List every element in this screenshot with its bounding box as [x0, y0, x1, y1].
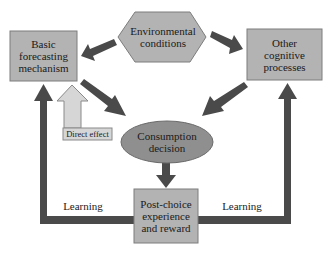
consumption-line-1: Consumption — [137, 130, 196, 142]
basic-forecasting-line-2: forecasting — [19, 50, 68, 62]
post-choice-label: Post-choice experience and reward — [134, 189, 198, 243]
basic-forecasting-line-3: mechanism — [18, 62, 68, 74]
arrow-env-to-basic — [81, 39, 117, 61]
other-cognitive-line-2: cognitive — [264, 49, 305, 61]
consumption-label: Consumption decision — [121, 121, 213, 163]
environmental-line-2: conditions — [140, 37, 186, 49]
direct-effect-label: Direct effect — [63, 128, 112, 140]
arrow-other-to-consumption — [202, 82, 248, 116]
environmental-label: Environmental conditions — [125, 12, 201, 62]
other-cognitive-label: Other cognitive processes — [247, 29, 322, 80]
learning-left-label: Learning — [58, 199, 108, 213]
arrow-basic-to-consumption — [80, 79, 126, 116]
learning-right-label: Learning — [217, 199, 267, 213]
consumption-line-2: decision — [149, 142, 186, 154]
basic-forecasting-label: Basic forecasting mechanism — [10, 31, 77, 81]
post-choice-line-1: Post-choice — [140, 198, 191, 210]
post-choice-line-3: and reward — [141, 222, 190, 234]
other-cognitive-line-1: Other — [272, 37, 297, 49]
environmental-line-1: Environmental — [130, 25, 195, 37]
basic-forecasting-line-1: Basic — [31, 38, 55, 50]
arrow-consumption-to-postchoice — [156, 162, 176, 188]
post-choice-line-2: experience — [142, 210, 190, 222]
arrow-env-to-other — [210, 31, 243, 54]
other-cognitive-line-3: processes — [263, 61, 305, 73]
